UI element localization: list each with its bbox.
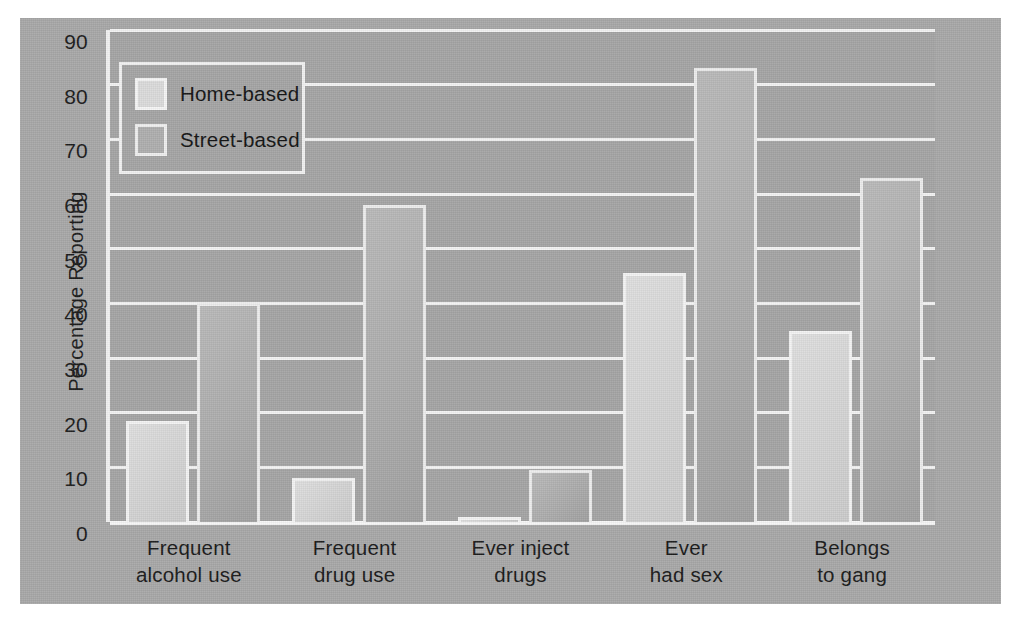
x-axis-label-line2: had sex — [603, 561, 769, 588]
y-tick-label-80: 80 — [20, 85, 88, 109]
x-axis-label-line1: Ever inject — [438, 534, 604, 561]
bar-home-based-3 — [623, 273, 686, 522]
x-axis-label-line2: alcohol use — [106, 561, 272, 588]
bar-shading — [129, 424, 186, 522]
x-axis-label-2: Ever injectdrugs — [438, 534, 604, 588]
y-tick-label-0: 0 — [20, 522, 88, 546]
y-tick-label-60: 60 — [20, 194, 88, 218]
chart-legend: Home-based Street-based — [119, 62, 305, 174]
x-axis-label-line2: drug use — [272, 561, 438, 588]
x-axis-label-line2: drugs — [438, 561, 604, 588]
bar-street-based-0 — [197, 303, 260, 522]
bar-home-based-0 — [126, 421, 189, 522]
y-tick-label-40: 40 — [20, 303, 88, 327]
y-tick-label-50: 50 — [20, 249, 88, 273]
bar-street-based-3 — [694, 68, 757, 522]
legend-swatch-street-based — [135, 124, 167, 156]
legend-entry-street-based: Street-based — [135, 123, 300, 157]
legend-swatch-home-based — [135, 78, 167, 110]
x-axis-category-labels: Frequentalcohol useFrequentdrug useEver … — [106, 534, 935, 604]
x-axis-label-line1: Belongs — [769, 534, 935, 561]
x-axis-label-line1: Ever — [603, 534, 769, 561]
y-tick-label-90: 90 — [20, 30, 88, 54]
bar-street-based-4 — [860, 178, 923, 522]
bar-shading — [461, 520, 518, 522]
bar-shading — [200, 306, 257, 522]
bar-street-based-2 — [529, 470, 592, 522]
bar-home-based-2 — [458, 517, 521, 522]
y-tick-label-70: 70 — [20, 139, 88, 163]
bar-shading — [863, 181, 920, 522]
bar-shading — [532, 473, 589, 522]
y-tick-label-10: 10 — [20, 467, 88, 491]
x-axis-label-3: Everhad sex — [603, 534, 769, 588]
x-axis-label-1: Frequentdrug use — [272, 534, 438, 588]
bar-shading — [295, 481, 352, 522]
x-axis-label-line1: Frequent — [272, 534, 438, 561]
bar-shading — [697, 71, 754, 522]
y-tick-label-30: 30 — [20, 358, 88, 382]
chart-figure: Percentage Reporting 0102030405060708090… — [20, 18, 1001, 604]
x-axis-label-line2: to gang — [769, 561, 935, 588]
legend-label-home-based: Home-based — [180, 82, 299, 106]
bar-street-based-1 — [363, 205, 426, 522]
x-axis-label-0: Frequentalcohol use — [106, 534, 272, 588]
bar-home-based-4 — [789, 331, 852, 522]
bar-shading — [366, 208, 423, 522]
bar-home-based-1 — [292, 478, 355, 522]
legend-label-street-based: Street-based — [180, 128, 300, 152]
y-tick-label-20: 20 — [20, 413, 88, 437]
x-axis-label-line1: Frequent — [106, 534, 272, 561]
y-axis-tick-labels: 0102030405060708090 — [20, 30, 106, 522]
legend-entry-home-based: Home-based — [135, 77, 299, 111]
bar-shading — [792, 334, 849, 522]
x-axis-label-4: Belongsto gang — [769, 534, 935, 588]
bar-shading — [626, 276, 683, 522]
